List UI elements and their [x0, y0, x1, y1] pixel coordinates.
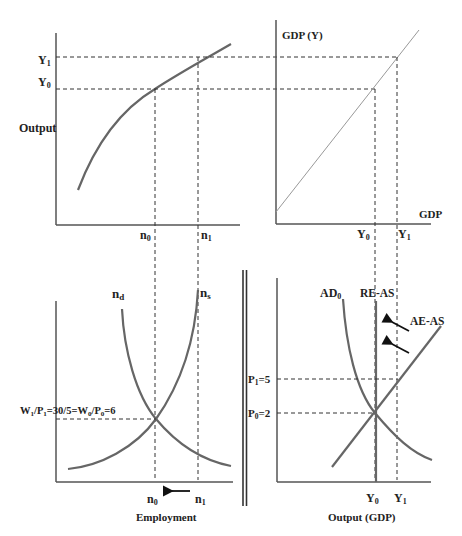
lower-shift-arrow-icon: [392, 344, 409, 353]
ae-as-label: AE-AS: [410, 315, 445, 327]
y0-x-tick-label: Y0: [357, 227, 370, 242]
output-axis-label: Output: [19, 121, 56, 135]
real-wage-label: W1/P1=30/5=W0/P0=6: [20, 405, 116, 418]
labor-demand-label: nd: [112, 286, 124, 302]
re-as-label: RE-AS: [360, 287, 395, 299]
n0-tick-label: n0: [140, 228, 151, 243]
p0-tick-label: P0=2: [248, 407, 271, 421]
panel-divider: [243, 270, 247, 506]
n1-employment-tick: n1: [195, 492, 206, 507]
y1-tick-label: Y1: [38, 53, 51, 68]
y1-output-tick: Y1: [394, 491, 407, 506]
labor-demand-curve: [122, 309, 231, 466]
economics-diagram: Y1 Y0 Output n0 n1 GDP (Y) GDP Y0 Y1 nd …: [0, 0, 462, 536]
labor-market-panel: nd ns W1/P1=30/5=W0/P0=6 n0 n1 Employmen…: [20, 285, 233, 523]
y0-tick-label: Y0: [38, 75, 51, 90]
labor-supply-label: ns: [200, 285, 211, 301]
gdp-x-axis-label: GDP: [419, 208, 443, 220]
employment-axis-label: Employment: [136, 511, 197, 523]
y1-x-tick-label: Y1: [398, 227, 411, 242]
y0-output-tick: Y0: [366, 491, 379, 506]
p1-tick-label: P1=5: [248, 373, 271, 387]
gdp-y-axis-label: GDP (Y): [282, 29, 323, 42]
n1-tick-label: n1: [201, 228, 212, 243]
ad0-label: AD0: [320, 286, 341, 301]
output-gdp-axis-label: Output (GDP): [328, 511, 396, 524]
n0-employment-tick: n0: [147, 492, 158, 507]
ad-as-panel: AD0 RE-AS AE-AS P1=5 P0=2 Y0 Y1 Output (…: [248, 278, 445, 524]
upper-shift-arrow-icon: [392, 322, 409, 331]
